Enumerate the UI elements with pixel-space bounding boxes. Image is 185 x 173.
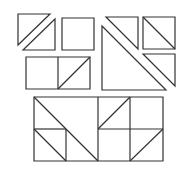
assembled-line-7 bbox=[98, 97, 130, 129]
triangle-top-left-b bbox=[23, 19, 55, 50]
square-top-middle bbox=[62, 18, 94, 50]
square-right-diagonal-line bbox=[143, 17, 175, 49]
assembled-rectangle bbox=[34, 97, 163, 161]
triangle-top-left-a bbox=[18, 14, 50, 45]
triangle-right-lower bbox=[143, 54, 175, 86]
puzzle-pieces bbox=[18, 14, 175, 90]
triangle-right-large bbox=[102, 26, 166, 90]
rectangle-middle-diagonal bbox=[58, 57, 90, 89]
assembled-line-8 bbox=[130, 129, 163, 161]
triangle-right-small bbox=[106, 17, 138, 49]
tangram-diagram bbox=[0, 0, 185, 173]
assembled-line-6 bbox=[34, 129, 66, 161]
